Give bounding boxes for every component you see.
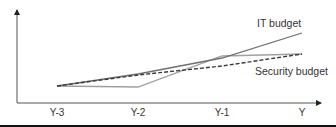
series-lines <box>57 33 302 87</box>
x-tick-label: Y-3 <box>50 107 65 118</box>
x-tick-label: Y-1 <box>215 107 230 118</box>
it-budget-line <box>57 33 302 86</box>
budget-chart: Y-3 Y-2 Y-1 Y IT budget Security budget <box>0 0 336 127</box>
x-tick-label: Y-2 <box>131 107 146 118</box>
x-tick-labels: Y-3 Y-2 Y-1 Y <box>50 107 306 118</box>
security-budget-label: Security budget <box>255 65 328 77</box>
x-tick-label: Y <box>299 107 306 118</box>
bottom-border <box>0 125 336 127</box>
it-budget-label: IT budget <box>257 17 301 29</box>
